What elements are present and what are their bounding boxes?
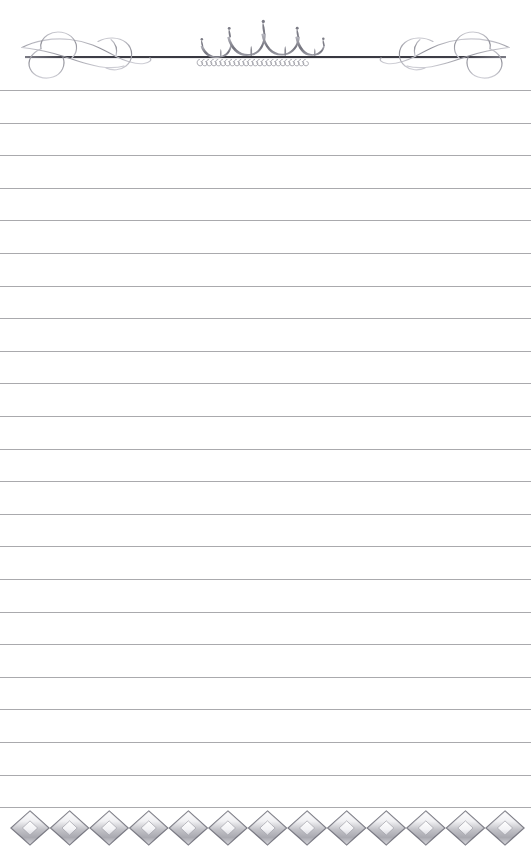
rule-line [0,612,531,613]
rule-line [0,709,531,710]
rule-line [0,481,531,482]
rule-line [0,579,531,580]
header-rule-line [25,56,506,58]
rule-line [0,351,531,352]
rule-line [0,383,531,384]
stationery-page [0,0,531,864]
rule-line [0,90,531,91]
rule-line [0,220,531,221]
rule-line [0,449,531,450]
crown-ornament [201,20,325,58]
rule-line [0,677,531,678]
crown-pearl-band [197,60,308,66]
right-swirl-flourish [380,32,509,78]
rule-line [0,546,531,547]
left-swirl-flourish [22,32,151,78]
rule-line [0,188,531,189]
rule-line [0,742,531,743]
rule-line [0,514,531,515]
rule-line [0,253,531,254]
header-ornament [0,0,531,86]
rule-line [0,286,531,287]
ruled-writing-area [0,0,531,864]
rule-line [0,644,531,645]
rule-line [0,416,531,417]
rule-line [0,123,531,124]
rule-line [0,318,531,319]
rule-line [0,775,531,776]
rule-line [0,155,531,156]
footer-border-ornament [0,804,531,864]
